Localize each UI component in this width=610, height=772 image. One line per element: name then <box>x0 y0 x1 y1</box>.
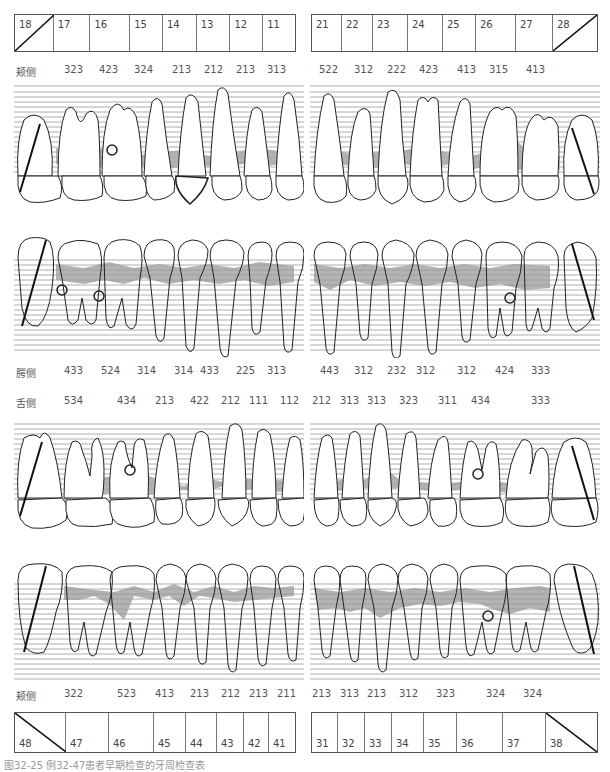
lower-left-buccal-diagram <box>310 552 600 682</box>
probe-value: 433 <box>64 365 83 376</box>
upper-palatal-label: 腭侧 <box>16 365 36 380</box>
lower-lingual-label: 舌侧 <box>16 395 36 410</box>
probe-value: 213 <box>172 64 191 75</box>
tooth-15-cell: 15 <box>130 15 163 51</box>
probe-value: 213 <box>249 688 268 699</box>
tooth-36-cell: 36 <box>457 713 503 752</box>
probe-value: 324 <box>486 688 505 699</box>
probe-value: 534 <box>64 395 83 406</box>
missing-tooth-strike <box>572 244 594 320</box>
probe-value: 111 <box>249 395 268 406</box>
probe-value: 222 <box>387 64 406 75</box>
probe-value: 312 <box>354 64 373 75</box>
upper-left-buccal-diagram <box>310 80 600 210</box>
probe-value: 434 <box>117 395 136 406</box>
pocket-depth-band <box>56 262 294 286</box>
probe-value: 413 <box>526 64 545 75</box>
tooth-number: 44 <box>190 738 203 749</box>
tooth-18-cell: 18 <box>15 15 54 51</box>
tooth-number: 15 <box>134 19 147 30</box>
tooth-25-cell: 25 <box>443 15 476 51</box>
lower-right-lingual-diagram <box>14 420 304 550</box>
tooth-16-cell: 16 <box>90 15 130 51</box>
tooth-37-cell: 37 <box>503 713 546 752</box>
pocket-depth-band <box>314 264 550 290</box>
probe-value: 323 <box>64 64 83 75</box>
tooth-44-cell: 44 <box>186 713 217 752</box>
probe-value: 522 <box>319 64 338 75</box>
probe-value: 315 <box>489 64 508 75</box>
tooth-number: 12 <box>234 19 247 30</box>
probe-value: 322 <box>64 688 83 699</box>
tooth-number: 47 <box>70 738 83 749</box>
tooth-number: 43 <box>221 738 234 749</box>
probe-value: 314 <box>137 365 156 376</box>
tooth-17-cell: 17 <box>54 15 91 51</box>
probe-value: 313 <box>340 688 359 699</box>
probe-value: 313 <box>367 395 386 406</box>
probe-value: 323 <box>399 395 418 406</box>
tooth-43-cell: 43 <box>217 713 244 752</box>
tooth-number: 24 <box>412 19 425 30</box>
lower-left-lingual-diagram <box>310 420 600 550</box>
tooth-23-cell: 23 <box>373 15 408 51</box>
upper-buccal-label: 颊侧 <box>16 64 36 79</box>
upper-left-palatal-diagram <box>310 228 600 358</box>
tooth-number: 46 <box>113 738 126 749</box>
figure-caption: 图32-25 例32-47患者早期检查的牙周检查表 <box>4 757 205 772</box>
probe-value: 312 <box>416 365 435 376</box>
tooth-38-cell: 38 <box>546 713 597 752</box>
probe-value: 423 <box>419 64 438 75</box>
upper-left-tooth-number-row: 21 22 23 24 25 26 27 28 <box>311 14 598 52</box>
tooth-46-cell: 46 <box>109 713 154 752</box>
probe-value: 212 <box>204 64 223 75</box>
missing-tooth-slash-icon <box>546 713 597 752</box>
tooth-number: 26 <box>480 19 493 30</box>
probe-value: 312 <box>399 688 418 699</box>
tooth-number: 42 <box>248 738 261 749</box>
furcation-marker-icon <box>483 611 493 621</box>
missing-tooth-slash-icon <box>553 15 597 51</box>
probe-value: 213 <box>155 395 174 406</box>
tooth-number: 17 <box>58 19 71 30</box>
upper-right-buccal-diagram <box>14 80 304 210</box>
tooth-number: 13 <box>201 19 214 30</box>
lower-right-buccal-diagram <box>14 552 304 682</box>
probe-value: 312 <box>457 365 476 376</box>
tooth-26-cell: 26 <box>476 15 516 51</box>
tooth-number: 21 <box>316 19 329 30</box>
probe-value: 232 <box>387 365 406 376</box>
missing-tooth-strike <box>574 566 594 654</box>
probe-value: 212 <box>221 395 240 406</box>
tooth-11-cell: 11 <box>263 15 295 51</box>
tooth-47-cell: 47 <box>66 713 109 752</box>
probe-value: 443 <box>320 365 339 376</box>
probe-value: 112 <box>280 395 299 406</box>
probe-value: 422 <box>190 395 209 406</box>
probe-value: 312 <box>354 365 373 376</box>
tooth-35-cell: 35 <box>424 713 457 752</box>
tooth-number: 37 <box>507 738 520 749</box>
tooth-34-cell: 34 <box>392 713 424 752</box>
tooth-27-cell: 27 <box>516 15 553 51</box>
probe-value: 225 <box>236 365 255 376</box>
probe-value: 324 <box>523 688 542 699</box>
tooth-14-cell: 14 <box>163 15 197 51</box>
tooth-number: 14 <box>167 19 180 30</box>
probe-value: 433 <box>200 365 219 376</box>
tooth-number: 34 <box>396 738 409 749</box>
tooth-number: 22 <box>346 19 359 30</box>
missing-tooth-slash-icon <box>15 15 54 51</box>
probe-value: 413 <box>457 64 476 75</box>
tooth-45-cell: 45 <box>154 713 186 752</box>
tooth-number: 27 <box>520 19 533 30</box>
tooth-13-cell: 13 <box>197 15 231 51</box>
tooth-number: 32 <box>342 738 355 749</box>
tooth-number: 11 <box>267 19 280 30</box>
probe-value: 423 <box>99 64 118 75</box>
upper-right-palatal-diagram <box>14 228 304 358</box>
tooth-number: 41 <box>273 738 286 749</box>
probe-value: 211 <box>277 688 296 699</box>
lower-left-tooth-number-row: 31 32 33 34 35 36 37 38 <box>311 712 598 753</box>
probe-value: 523 <box>117 688 136 699</box>
